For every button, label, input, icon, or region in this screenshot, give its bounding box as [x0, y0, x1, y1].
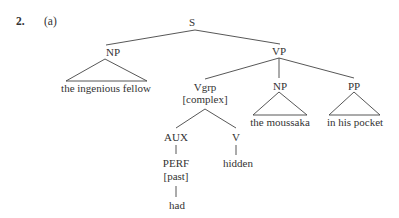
leaf-had: had [169, 199, 185, 211]
leaf-subject-text: the ingenious fellow [61, 82, 151, 94]
node-S: S [189, 16, 195, 28]
node-Vgrp: Vgrp [194, 81, 217, 93]
leaf-pp-text: in his pocket [327, 116, 383, 128]
node-NP-subject: NP [106, 46, 120, 58]
node-Vgrp-feature: [complex] [182, 93, 227, 105]
node-AUX: AUX [164, 131, 188, 143]
tree-edges [0, 0, 399, 218]
node-VP: VP [272, 45, 286, 57]
node-V: V [232, 131, 240, 143]
leaf-object-text: the moussaka [250, 116, 310, 128]
node-PP: PP [348, 80, 360, 92]
node-PERF-feature: [past] [163, 170, 188, 182]
node-PERF: PERF [163, 157, 189, 169]
node-NP-object: NP [273, 80, 287, 92]
leaf-hidden: hidden [223, 157, 253, 169]
